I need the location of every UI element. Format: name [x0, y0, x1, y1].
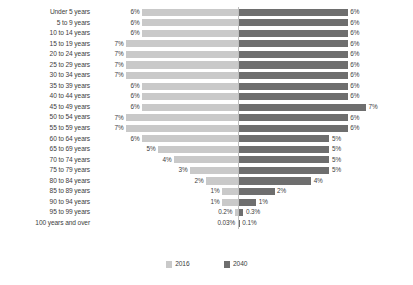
chart-row: 50 to 54 years7%6%: [0, 112, 413, 123]
chart-plot-area: Under 5 years6%6%5 to 9 years6%6%10 to 1…: [0, 7, 413, 228]
left-series-cell: 3%: [93, 165, 238, 176]
left-series-cell: 0.2%: [93, 207, 238, 218]
left-bar: [222, 188, 238, 195]
right-series-cell: 6%: [238, 39, 413, 50]
left-series-cell: 4%: [93, 155, 238, 166]
right-value-label: 2%: [275, 188, 287, 194]
right-bar: [238, 61, 348, 68]
chart-row: 45 to 49 years6%7%: [0, 102, 413, 113]
category-label: 75 to 79 years: [0, 167, 93, 174]
category-label: 85 to 89 years: [0, 188, 93, 195]
right-value-label: 6%: [348, 9, 360, 15]
left-value-label: 7%: [114, 41, 126, 47]
chart-row: Under 5 years6%6%: [0, 7, 413, 18]
right-series-cell: 6%: [238, 81, 413, 92]
right-value-label: 5%: [329, 146, 341, 152]
chart-row: 85 to 89 years1%2%: [0, 186, 413, 197]
right-series-cell: 7%: [238, 102, 413, 113]
right-series-cell: 5%: [238, 144, 413, 155]
category-label: 90 to 94 years: [0, 199, 93, 206]
left-series-cell: 6%: [93, 102, 238, 113]
legend-label: 2040: [233, 261, 247, 268]
left-value-label: 7%: [114, 62, 126, 68]
chart-row: 35 to 39 years6%6%: [0, 81, 413, 92]
right-bar: [238, 135, 329, 142]
chart-row: 25 to 29 years7%6%: [0, 60, 413, 71]
left-series-cell: 2%: [93, 176, 238, 187]
left-bar: [174, 156, 238, 163]
right-series-cell: 5%: [238, 134, 413, 145]
chart-row: 80 to 84 years2%4%: [0, 176, 413, 187]
chart-row: 20 to 24 years7%6%: [0, 49, 413, 60]
left-series-cell: 6%: [93, 7, 238, 18]
category-label: 25 to 29 years: [0, 62, 93, 69]
left-series-cell: 7%: [93, 123, 238, 134]
left-series-cell: 7%: [93, 39, 238, 50]
chart-row: 65 to 69 years5%5%: [0, 144, 413, 155]
category-label: 10 to 14 years: [0, 30, 93, 37]
right-value-label: 6%: [348, 51, 360, 57]
right-series-cell: 0.3%: [238, 207, 413, 218]
right-value-label: 5%: [329, 157, 341, 163]
left-value-label: 6%: [130, 104, 142, 110]
chart-row: 70 to 74 years4%5%: [0, 155, 413, 166]
left-value-label: 4%: [162, 157, 174, 163]
left-series-cell: 7%: [93, 112, 238, 123]
population-pyramid-chart: Under 5 years6%6%5 to 9 years6%6%10 to 1…: [0, 0, 413, 285]
left-value-label: 7%: [114, 125, 126, 131]
right-bar: [238, 9, 348, 16]
category-label: 80 to 84 years: [0, 178, 93, 185]
chart-row: 5 to 9 years6%6%: [0, 18, 413, 29]
category-label: 15 to 19 years: [0, 41, 93, 48]
left-bar: [142, 93, 238, 100]
right-value-label: 6%: [348, 93, 360, 99]
category-label: 35 to 39 years: [0, 83, 93, 90]
left-series-cell: 7%: [93, 60, 238, 71]
category-label: 55 to 59 years: [0, 125, 93, 132]
left-bar: [126, 61, 238, 68]
right-value-label: 5%: [329, 167, 341, 173]
left-bar: [126, 51, 238, 58]
left-value-label: 1%: [210, 199, 222, 205]
right-series-cell: 0.1%: [238, 218, 413, 229]
left-value-label: 6%: [130, 20, 142, 26]
right-series-cell: 6%: [238, 60, 413, 71]
center-axis-line: [238, 7, 239, 229]
left-bar: [126, 72, 238, 79]
left-value-label: 5%: [146, 146, 158, 152]
left-bar: [190, 167, 238, 174]
right-bar: [238, 19, 348, 26]
right-value-label: 5%: [329, 136, 341, 142]
left-bar: [206, 177, 238, 184]
left-value-label: 6%: [130, 93, 142, 99]
left-bar: [142, 83, 238, 90]
right-bar: [238, 146, 329, 153]
left-bar: [158, 146, 238, 153]
category-label: 30 to 34 years: [0, 72, 93, 79]
right-bar: [238, 125, 348, 132]
left-series-cell: 1%: [93, 186, 238, 197]
right-bar: [238, 72, 348, 79]
legend-entry[interactable]: 2040: [224, 261, 248, 268]
chart-row: 100 years and over0.03%0.1%: [0, 218, 413, 229]
chart-row: 10 to 14 years6%6%: [0, 28, 413, 39]
left-bar: [126, 125, 238, 132]
right-value-label: 6%: [348, 41, 360, 47]
category-label: 45 to 49 years: [0, 104, 93, 111]
legend-entry[interactable]: 2016: [166, 261, 190, 268]
right-bar: [238, 177, 311, 184]
right-bar: [238, 30, 348, 37]
chart-legend: 20162040: [0, 261, 413, 268]
left-value-label: 0.03%: [217, 220, 237, 226]
right-value-label: 6%: [348, 62, 360, 68]
right-value-label: 6%: [348, 83, 360, 89]
category-label: 50 to 54 years: [0, 114, 93, 121]
left-value-label: 7%: [114, 115, 126, 121]
right-series-cell: 1%: [238, 197, 413, 208]
right-series-cell: 6%: [238, 123, 413, 134]
left-bar: [142, 30, 238, 37]
chart-row: 60 to 64 years6%5%: [0, 134, 413, 145]
right-series-cell: 6%: [238, 49, 413, 60]
right-bar: [238, 156, 329, 163]
left-value-label: 6%: [130, 83, 142, 89]
